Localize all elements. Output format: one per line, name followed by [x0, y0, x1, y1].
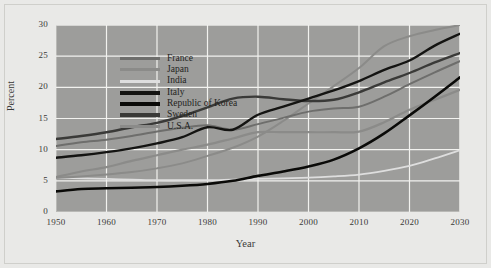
legend-item-france[interactable]: France	[120, 53, 237, 64]
y-tick-label: 0	[20, 206, 48, 216]
legend-label: France	[167, 54, 193, 64]
chart-svg	[56, 25, 460, 212]
legend-item-italy[interactable]: Italy	[120, 87, 237, 98]
plot-area: FranceJapanIndiaItalyRepublic of KoreaSw…	[56, 25, 460, 212]
y-tick-label: 5	[20, 175, 48, 185]
chart-figure: Percent Year 051015202530 19501960197019…	[0, 0, 491, 268]
legend-swatch	[120, 102, 160, 106]
legend-label: U.S.A.	[167, 122, 193, 132]
legend-item-sweden[interactable]: Sweden	[120, 109, 237, 120]
legend-label: Sweden	[167, 110, 197, 120]
legend-swatch	[120, 80, 160, 83]
legend-label: Japan	[167, 65, 189, 75]
y-tick-label: 30	[20, 19, 48, 29]
x-tick-label: 1960	[92, 217, 122, 227]
gridlines	[56, 25, 460, 212]
legend-item-republic-of-korea[interactable]: Republic of Korea	[120, 98, 237, 109]
legend-swatch	[120, 57, 160, 60]
y-tick-label: 15	[20, 113, 48, 123]
y-tick-label: 10	[20, 144, 48, 154]
legend-swatch	[120, 68, 160, 71]
y-tick-label: 20	[20, 81, 48, 91]
x-tick-label: 1970	[142, 217, 172, 227]
x-tick-label: 2010	[344, 217, 374, 227]
x-tick-label: 1980	[193, 217, 223, 227]
legend-item-u-s-a[interactable]: U.S.A.	[120, 121, 237, 132]
legend-label: Republic of Korea	[167, 99, 237, 109]
legend-swatch	[120, 91, 160, 95]
legend-label: Italy	[167, 88, 184, 98]
legend-item-japan[interactable]: Japan	[120, 64, 237, 75]
x-tick-label: 2020	[395, 217, 425, 227]
y-axis-title: Percent	[5, 81, 16, 111]
x-tick-label: 2000	[294, 217, 324, 227]
x-tick-label: 1950	[41, 217, 71, 227]
legend-item-india[interactable]: India	[120, 76, 237, 87]
chart-legend: FranceJapanIndiaItalyRepublic of KoreaSw…	[120, 53, 237, 132]
x-tick-label: 1990	[243, 217, 273, 227]
legend-swatch	[120, 125, 160, 128]
y-tick-label: 25	[20, 50, 48, 60]
legend-label: India	[167, 76, 187, 86]
x-axis-title: Year	[0, 238, 491, 249]
x-tick-label: 2030	[445, 217, 475, 227]
legend-swatch	[120, 113, 160, 117]
